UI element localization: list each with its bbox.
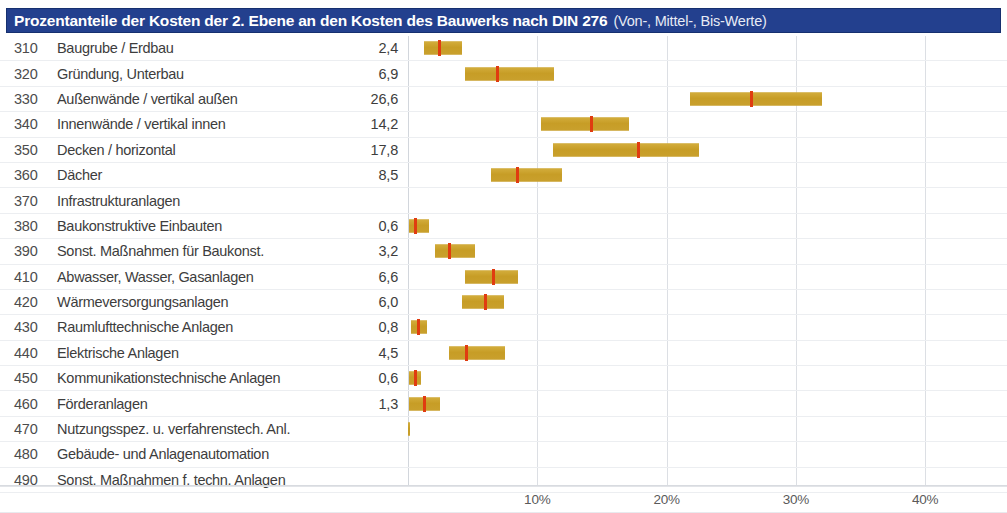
row-code: 480 [14,446,38,462]
range-bar [409,219,428,232]
row-code: 470 [14,421,38,437]
range-bar [462,296,503,309]
row-label: Decken / horizontal [57,142,175,158]
row-label: Förderanlagen [57,396,147,412]
row-code: 430 [14,319,38,335]
table-row[interactable]: 330Außenwände / vertikal außen26,6 [0,87,1007,112]
row-value: 0,6 [330,218,398,234]
median-marker [417,319,420,335]
table-row[interactable]: 320Gründung, Unterbau6,9 [0,61,1007,86]
row-value: 6,0 [330,294,398,310]
table-row[interactable]: 440Elektrische Anlagen4,5 [0,341,1007,366]
range-bar [408,423,410,436]
row-code: 450 [14,370,38,386]
row-value: 1,3 [330,396,398,412]
median-marker [414,370,417,386]
chart-title-bar: Prozentanteile der Kosten der 2. Ebene a… [6,8,1001,33]
range-bar [465,67,554,80]
row-code: 390 [14,243,38,259]
row-label: Raumlufttechnische Anlagen [57,319,233,335]
row-label: Elektrische Anlagen [57,345,179,361]
range-bar [491,169,562,182]
row-code: 380 [14,218,38,234]
range-bar [424,42,463,55]
chart-page: Prozentanteile der Kosten der 2. Ebene a… [0,0,1007,513]
row-code: 360 [14,167,38,183]
row-value: 0,8 [330,319,398,335]
median-marker [448,243,451,259]
table-row[interactable]: 450Kommunikationstechnische Anlagen0,6 [0,366,1007,391]
row-label: Gründung, Unterbau [57,66,184,82]
row-code: 440 [14,345,38,361]
row-code: 420 [14,294,38,310]
range-bar [690,92,822,105]
row-code: 330 [14,91,38,107]
row-code: 320 [14,66,38,82]
range-bar [553,143,699,156]
page-title-subtitle: (Von-, Mittel-, Bis-Werte) [613,13,766,29]
row-value: 14,2 [330,116,398,132]
row-code: 370 [14,193,38,209]
range-bar [449,346,505,359]
row-label: Wärmeversorgungsanlagen [57,294,228,310]
table-row[interactable]: 350Decken / horizontal17,8 [0,138,1007,163]
table-row[interactable]: 460Förderanlagen1,3 [0,391,1007,416]
median-marker [423,396,426,412]
median-marker [750,91,753,107]
row-code: 340 [14,116,38,132]
median-marker [516,167,519,183]
row-label: Dächer [57,167,102,183]
row-value: 26,6 [330,91,398,107]
x-axis-tick-label: 30% [783,492,809,507]
row-value: 6,9 [330,66,398,82]
chart-rows: 310Baugrube / Erdbau2,4320Gründung, Unte… [0,36,1007,493]
row-value: 0,6 [330,370,398,386]
row-label: Baukonstruktive Einbauten [57,218,222,234]
row-label: Außenwände / vertikal außen [57,91,238,107]
row-code: 460 [14,396,38,412]
x-axis-tick-label: 10% [524,492,550,507]
x-axis-tick-label: 40% [912,492,938,507]
median-marker [414,218,417,234]
row-code: 310 [14,40,38,56]
table-row[interactable]: 310Baugrube / Erdbau2,4 [0,36,1007,61]
row-value: 6,6 [330,269,398,285]
table-row[interactable]: 420Wärmeversorgungsanlagen6,0 [0,290,1007,315]
row-value: 8,5 [330,167,398,183]
table-row[interactable]: 360Dächer8,5 [0,163,1007,188]
page-title: Prozentanteile der Kosten der 2. Ebene a… [14,12,607,30]
row-label: Sonst. Maßnahmen für Baukonst. [57,243,264,259]
x-axis-tick-label: 20% [653,492,679,507]
table-row[interactable]: 430Raumlufttechnische Anlagen0,8 [0,315,1007,340]
x-axis: 10%20%30%40% [0,486,1007,513]
row-code: 410 [14,269,38,285]
table-row[interactable]: 470Nutzungsspez. u. verfahrenstech. Anl. [0,417,1007,442]
row-label: Baugrube / Erdbau [57,40,174,56]
row-value: 3,2 [330,243,398,259]
table-row[interactable]: 480Gebäude- und Anlagenautomation [0,442,1007,467]
table-row[interactable]: 410Abwasser, Wasser, Gasanlagen6,6 [0,265,1007,290]
row-label: Innenwände / vertikal innen [57,116,225,132]
median-marker [637,142,640,158]
median-marker [438,40,441,56]
row-value: 17,8 [330,142,398,158]
row-label: Kommunikationstechnische Anlagen [57,370,280,386]
table-row[interactable]: 390Sonst. Maßnahmen für Baukonst.3,2 [0,239,1007,264]
row-label: Abwasser, Wasser, Gasanlagen [57,269,254,285]
table-row[interactable]: 380Baukonstruktive Einbauten0,6 [0,214,1007,239]
median-marker [496,66,499,82]
median-marker [492,269,495,285]
median-marker [590,116,593,132]
row-label: Nutzungsspez. u. verfahrenstech. Anl. [57,421,290,437]
range-bar [541,118,629,131]
table-row[interactable]: 340Innenwände / vertikal innen14,2 [0,112,1007,137]
range-bar [435,245,475,258]
median-marker [484,294,487,310]
row-code: 350 [14,142,38,158]
row-label: Infrastrukturanlagen [57,193,180,209]
row-value: 4,5 [330,345,398,361]
row-value: 2,4 [330,40,398,56]
median-marker [465,345,468,361]
row-label: Gebäude- und Anlagenautomation [57,446,269,462]
table-row[interactable]: 370Infrastrukturanlagen [0,188,1007,213]
